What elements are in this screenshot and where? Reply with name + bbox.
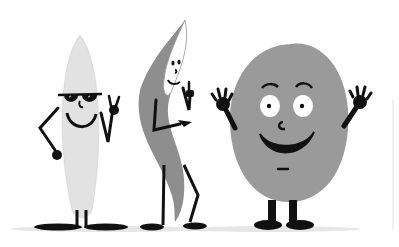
white-grain-character	[34, 35, 128, 231]
hand	[52, 150, 62, 160]
pupil	[300, 104, 304, 108]
waving-hand-icon	[350, 87, 371, 109]
foot	[183, 223, 207, 230]
round-grain-body	[230, 44, 348, 203]
arm	[40, 108, 58, 150]
leg	[289, 200, 297, 222]
foot	[286, 220, 314, 230]
peace-sign-hand-icon	[109, 96, 119, 115]
arm	[101, 113, 112, 142]
thumbs-up-icon	[186, 82, 194, 97]
leg	[163, 165, 164, 225]
pupil	[267, 104, 271, 108]
foot	[34, 224, 82, 231]
eye	[177, 60, 180, 65]
cartoon-illustration	[0, 0, 399, 247]
round-grain-character	[212, 44, 371, 230]
foot	[254, 220, 282, 230]
eye	[171, 61, 174, 66]
waving-hand-icon	[212, 89, 232, 111]
foot	[140, 224, 164, 231]
leg	[268, 200, 276, 222]
right-edge-line	[392, 100, 394, 230]
foot	[84, 224, 128, 231]
wild-grain-character	[139, 20, 207, 231]
leg	[184, 165, 198, 222]
